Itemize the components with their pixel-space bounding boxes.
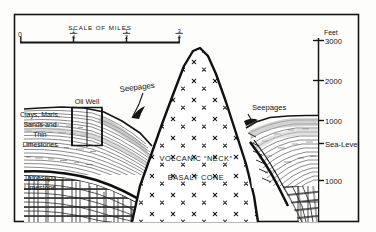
- elevation-axis-unit: Feet: [324, 29, 338, 36]
- elevation-tick-sea-level: Sea-Level: [313, 140, 360, 149]
- volcanic-neck-label: VOLCANIC “NECK”: [160, 154, 233, 163]
- svg-text:3: 3: [178, 28, 181, 34]
- oil-well-label: Oil Well: [75, 97, 100, 106]
- svg-text:1: 1: [72, 28, 75, 34]
- scale-bar: SCALE OF MILES 0 1 4 1 2 3 4: [18, 24, 183, 43]
- elevation-tick-2000: 2000: [313, 77, 342, 86]
- cross-section-svg: SCALE OF MILES 0 1 4 1 2 3 4 Feet 3000 2…: [0, 0, 376, 232]
- seepages-left-pointer: [132, 93, 145, 119]
- svg-text:3000: 3000: [325, 37, 342, 46]
- seepages-left-label: Seepages: [119, 81, 155, 94]
- svg-text:2: 2: [125, 34, 128, 40]
- figure-canvas: SCALE OF MILES 0 1 4 1 2 3 4 Feet 3000 2…: [0, 0, 376, 232]
- seepages-right-label: Seepages: [252, 103, 286, 112]
- elevation-axis: Feet 3000 2000 1000 Sea-Level 1000: [313, 29, 360, 222]
- scale-bar-title: SCALE OF MILES: [68, 24, 132, 31]
- svg-text:1: 1: [125, 28, 128, 34]
- scale-tick-label-0: 0: [18, 31, 22, 38]
- svg-text:1000: 1000: [325, 177, 342, 186]
- elevation-tick-3000: 3000: [313, 37, 342, 46]
- svg-text:4: 4: [72, 34, 75, 40]
- svg-text:1000: 1000: [325, 117, 342, 126]
- scale-tick-label-threequarter: 3 4: [176, 28, 183, 41]
- svg-text:Sea-Level: Sea-Level: [325, 140, 360, 149]
- basalt-cone-label: BASALT CONE: [168, 173, 225, 182]
- svg-text:4: 4: [178, 34, 181, 40]
- svg-text:2000: 2000: [325, 77, 342, 86]
